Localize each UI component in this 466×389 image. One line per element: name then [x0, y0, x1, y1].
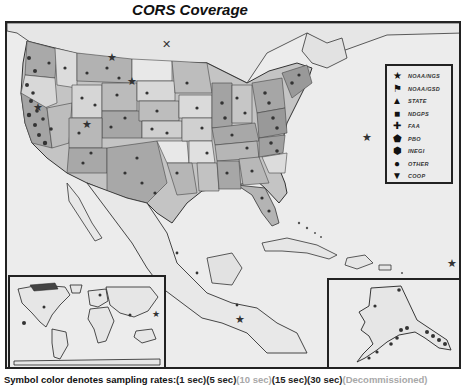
svg-text:★: ★ — [447, 257, 457, 270]
alaska-inset-map[interactable] — [327, 278, 461, 369]
legend-item-coop: ▼ COOP — [390, 170, 448, 183]
map-legend: ★ NOAA/NGS ⚑ NOAA/GSD ▲ STATE ■ NDGPS ✚ … — [385, 64, 453, 184]
svg-text:★: ★ — [82, 118, 92, 131]
legend-item-noaa-gsd: ⚑ NOAA/GSD — [390, 83, 448, 96]
rate-5-sec: (5 sec) — [206, 374, 236, 385]
legend-item-state: ▲ STATE — [390, 95, 448, 108]
rate-10-sec: (10 sec) — [236, 374, 271, 385]
svg-text:★: ★ — [127, 75, 137, 88]
legend-item-other: ● OTHER — [390, 158, 448, 171]
legend-item-pbo: ⬟ PBO — [390, 133, 448, 146]
rate-30-sec: (30 sec) — [307, 374, 342, 385]
pentagon-icon: ⬟ — [390, 134, 404, 144]
world-inset-map[interactable]: ★ — [8, 275, 166, 369]
triangle-down-icon: ▼ — [390, 171, 404, 181]
map-title: CORS Coverage — [0, 0, 380, 20]
sampling-rate-caption: Symbol color denotes sampling rates:(1 s… — [4, 374, 428, 386]
legend-item-faa: ✚ FAA — [390, 120, 448, 133]
hexagon-icon: ⬢ — [390, 146, 404, 156]
circle-icon: ● — [390, 159, 404, 169]
svg-text:★: ★ — [362, 131, 372, 144]
legend-item-noaa-ngs: ★ NOAA/NGS — [390, 70, 448, 83]
star-icon: ★ — [390, 71, 404, 81]
rate-1-sec: (1 sec) — [176, 374, 206, 385]
svg-text:★: ★ — [235, 313, 245, 326]
rate-decommissioned: (Decommissioned) — [343, 374, 428, 385]
svg-text:★: ★ — [33, 101, 43, 114]
triangle-icon: ▲ — [390, 96, 404, 106]
svg-text:✕: ✕ — [162, 38, 171, 51]
caption-lead: Symbol color denotes sampling rates: — [4, 374, 176, 385]
svg-text:★: ★ — [107, 51, 117, 64]
rate-15-sec: (15 sec) — [272, 374, 307, 385]
svg-text:★: ★ — [152, 309, 160, 319]
legend-item-inegi: ⬢ INEGI — [390, 145, 448, 158]
legend-item-ndgps: ■ NDGPS — [390, 108, 448, 121]
flag-icon: ⚑ — [390, 84, 404, 94]
alaska-map-graphic — [329, 280, 459, 367]
world-map-graphic: ★ — [10, 277, 164, 367]
cross-icon: ✚ — [390, 121, 404, 131]
square-icon: ■ — [390, 109, 404, 119]
